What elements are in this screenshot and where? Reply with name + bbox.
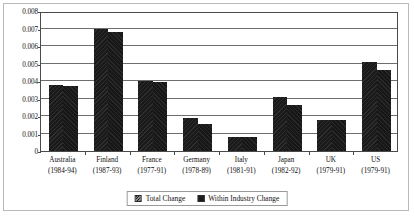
category-name: Japan [264, 155, 309, 166]
chart-figure: 00.0010.0020.0030.0040.0050.0060.0070.00… [0, 0, 414, 219]
y-axis-tick-label: 0 [2, 148, 38, 156]
category-years: (1984-94) [40, 166, 85, 177]
category-name: UK [309, 155, 354, 166]
x-axis-category-label: US(1979-91) [353, 155, 398, 176]
bar [153, 82, 168, 151]
category-years: (1987-93) [85, 166, 130, 177]
y-axis-tick-label: 0.007 [2, 26, 38, 34]
bar [332, 120, 347, 151]
category-name: Finland [85, 155, 130, 166]
y-axis-tick-label: 0.008 [2, 8, 38, 16]
legend-swatch-icon [197, 195, 204, 202]
x-axis-category-label: Italy(1981-91) [219, 155, 264, 176]
x-axis-category-label: Japan(1982-92) [264, 155, 309, 176]
bar [228, 137, 243, 151]
bar [63, 86, 78, 151]
x-axis-labels: Australia(1984-94)Finland(1987-93)France… [40, 155, 398, 185]
legend-label: Total Change [146, 194, 186, 203]
bars-layer [41, 13, 397, 151]
category-name: US [353, 155, 398, 166]
legend-entry: Within Industry Change [197, 194, 279, 203]
category-years: (1982-92) [264, 166, 309, 177]
category-years: (1979-91) [353, 166, 398, 177]
bar [242, 137, 257, 151]
bar [183, 118, 198, 151]
bar [362, 62, 377, 151]
y-axis-tick-label: 0.005 [2, 61, 38, 69]
category-years: (1977-91) [130, 166, 175, 177]
category-name: Germany [174, 155, 219, 166]
category-years: (1979-91) [309, 166, 354, 177]
chart-legend: Total ChangeWithin Industry Change [127, 191, 288, 206]
bar [49, 85, 64, 151]
x-axis-category-label: Germany(1978-89) [174, 155, 219, 176]
legend-label: Within Industry Change [208, 194, 279, 203]
bar [198, 124, 213, 151]
y-axis-tick-label: 0.006 [2, 43, 38, 51]
category-name: France [130, 155, 175, 166]
bar [94, 29, 109, 152]
bar [287, 105, 302, 151]
y-axis-tick-label: 0.003 [2, 96, 38, 104]
bar [273, 97, 288, 151]
legend-swatch-icon [135, 195, 142, 202]
x-axis-category-label: Finland(1987-93) [85, 155, 130, 176]
category-years: (1978-89) [174, 166, 219, 177]
bar [317, 120, 332, 151]
plot-wrapper [40, 12, 398, 152]
y-axis: 00.0010.0020.0030.0040.0050.0060.0070.00… [0, 12, 38, 152]
legend-entry: Total Change [135, 194, 186, 203]
x-axis-category-label: Australia(1984-94) [40, 155, 85, 176]
bar [108, 32, 123, 151]
category-name: Australia [40, 155, 85, 166]
y-axis-tick-label: 0.004 [2, 78, 38, 86]
category-years: (1981-91) [219, 166, 264, 177]
y-axis-tick-label: 0.002 [2, 113, 38, 121]
x-axis-category-label: UK(1979-91) [309, 155, 354, 176]
bar [138, 81, 153, 151]
y-axis-tick-label: 0.001 [2, 131, 38, 139]
plot-area [40, 12, 398, 152]
bar [377, 70, 392, 151]
category-name: Italy [219, 155, 264, 166]
x-axis-category-label: France(1977-91) [130, 155, 175, 176]
